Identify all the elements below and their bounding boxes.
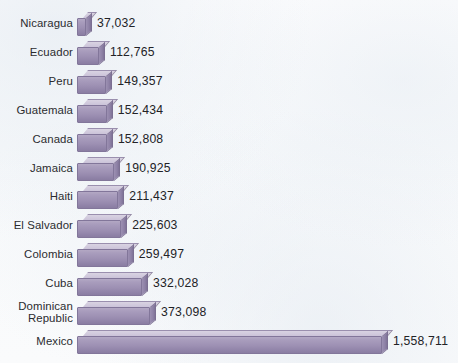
category-label: El Salvador [0, 219, 73, 231]
category-label: Cuba [0, 277, 73, 289]
bar-row: Dominican Republic373,098 [0, 301, 458, 325]
value-label: 225,603 [132, 219, 177, 232]
value-label: 259,497 [139, 248, 184, 261]
bar-top-face [83, 330, 393, 336]
bar-side-face [99, 42, 105, 65]
bar-row: Mexico1,558,711 [0, 330, 458, 354]
category-label: Haiti [0, 190, 73, 202]
bar-row: Cuba332,028 [0, 272, 458, 296]
bar-side-face [86, 13, 92, 36]
bar-side-face [107, 129, 113, 152]
bar [77, 243, 128, 267]
bar [77, 70, 106, 94]
bar-side-face [114, 157, 120, 180]
bar [77, 41, 99, 65]
bar-front-face [77, 249, 128, 267]
bar [77, 330, 382, 354]
category-label: Peru [0, 75, 73, 87]
value-label: 373,098 [161, 306, 206, 319]
bar-side-face [150, 302, 156, 325]
bar-front-face [77, 307, 150, 325]
bar [77, 272, 142, 296]
value-label: 332,028 [153, 277, 198, 290]
bar-row: Guatemala152,434 [0, 99, 458, 123]
category-label: Jamaica [0, 162, 73, 174]
bar-side-face [106, 71, 112, 94]
bar-side-face [382, 331, 388, 354]
bar-row: Peru149,357 [0, 70, 458, 94]
bar-top-face [83, 41, 110, 47]
bar [77, 99, 107, 123]
bar [77, 185, 118, 209]
value-label: 37,032 [97, 17, 135, 30]
bar-front-face [77, 47, 99, 65]
bar [77, 214, 121, 238]
bar-front-face [77, 105, 107, 123]
bar-row: Canada152,808 [0, 128, 458, 152]
bar-front-face [77, 18, 86, 36]
bar-front-face [77, 191, 118, 209]
value-label: 211,437 [129, 190, 174, 203]
category-label: Dominican Republic [0, 300, 73, 325]
category-label: Colombia [0, 248, 73, 260]
category-label: Guatemala [0, 104, 73, 116]
bar-chart: Nicaragua37,032Ecuador112,765Peru149,357… [0, 0, 458, 363]
bar-row: Ecuador112,765 [0, 41, 458, 65]
bar-row: Haiti211,437 [0, 185, 458, 209]
bar-side-face [142, 273, 148, 296]
value-label: 1,558,711 [393, 335, 448, 348]
bar [77, 12, 86, 36]
bar-top-face [83, 70, 117, 76]
category-label: Mexico [0, 335, 73, 347]
bar-row: Jamaica190,925 [0, 157, 458, 181]
value-label: 152,808 [118, 133, 163, 146]
bar-side-face [118, 186, 124, 209]
bar-front-face [77, 336, 382, 354]
bar-row: Nicaragua37,032 [0, 12, 458, 36]
bar-front-face [77, 163, 114, 181]
bar-side-face [107, 100, 113, 123]
bar-side-face [128, 244, 134, 267]
bar [77, 128, 107, 152]
value-label: 149,357 [117, 75, 162, 88]
bar-front-face [77, 278, 142, 296]
value-label: 190,925 [125, 162, 170, 175]
bar-front-face [77, 134, 107, 152]
bar-front-face [77, 220, 121, 238]
category-label: Nicaragua [0, 17, 73, 29]
value-label: 112,765 [110, 46, 155, 59]
bar-row: El Salvador225,603 [0, 214, 458, 238]
category-label: Ecuador [0, 46, 73, 58]
value-label: 152,434 [118, 104, 163, 117]
category-label: Canada [0, 133, 73, 145]
bar-row: Colombia259,497 [0, 243, 458, 267]
bar-front-face [77, 76, 106, 94]
bar [77, 301, 150, 325]
bar-side-face [121, 215, 127, 238]
bar [77, 157, 114, 181]
